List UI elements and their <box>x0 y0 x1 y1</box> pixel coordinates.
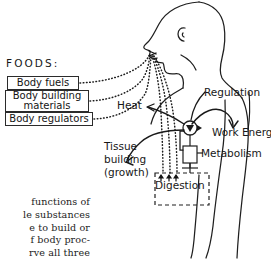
label-work-energy: Work Energy <box>212 127 271 138</box>
caption-text: functions of le substances e to build or… <box>0 196 90 260</box>
food-box-body-fuels[interactable]: Body fuels <box>7 76 79 90</box>
label-tissue-building: Tissue building (growth) <box>104 140 149 178</box>
foods-heading: FOODS: <box>6 58 59 69</box>
heat-arrow <box>147 104 184 124</box>
label-heat: Heat <box>117 100 142 111</box>
label-regulation: Regulation <box>204 87 260 98</box>
food-box-body-building-materials[interactable]: Body building materials <box>5 90 89 112</box>
label-digestion: Digestion <box>155 180 205 191</box>
label-metabolism: Metabolism <box>201 148 262 159</box>
food-box-body-regulators[interactable]: Body regulators <box>5 112 93 126</box>
metabolism-symbol <box>183 140 203 168</box>
figure-root: FOODS: Body fuels Body building material… <box>0 0 271 260</box>
